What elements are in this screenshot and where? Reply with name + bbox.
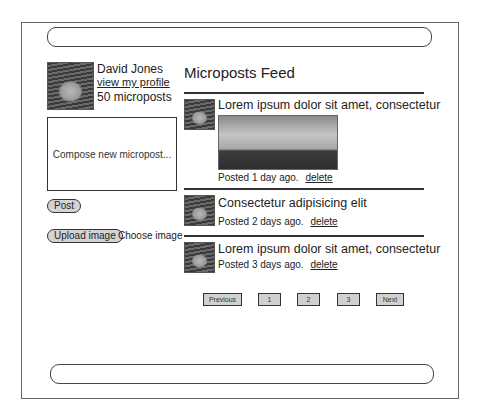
view-profile-link[interactable]: view my profile bbox=[97, 76, 170, 88]
pagination-next[interactable]: Next bbox=[376, 293, 404, 306]
post-timestamp: Posted 1 day ago. bbox=[218, 172, 299, 183]
post-image bbox=[218, 115, 338, 170]
upload-image-button[interactable]: Upload image bbox=[47, 229, 123, 243]
delete-link[interactable]: delete bbox=[310, 259, 337, 270]
pagination-previous[interactable]: Previous bbox=[203, 293, 242, 306]
post-content: Lorem ipsum dolor sit amet, consectetur bbox=[218, 242, 440, 256]
post-meta: Posted 3 days ago. delete bbox=[218, 259, 338, 270]
delete-link[interactable]: delete bbox=[305, 172, 332, 183]
pagination-page-2[interactable]: 2 bbox=[297, 293, 320, 306]
post-timestamp: Posted 3 days ago. bbox=[218, 259, 304, 270]
post-content: Consectetur adipisicing elit bbox=[218, 196, 367, 210]
divider bbox=[184, 92, 424, 94]
divider bbox=[184, 188, 424, 190]
post-timestamp: Posted 2 days ago. bbox=[218, 216, 304, 227]
feed-title: Microposts Feed bbox=[184, 64, 295, 81]
post-button[interactable]: Post bbox=[47, 199, 81, 213]
post-meta: Posted 2 days ago. delete bbox=[218, 216, 338, 227]
post-avatar bbox=[184, 99, 215, 130]
user-avatar bbox=[47, 62, 94, 110]
post-meta: Posted 1 day ago. delete bbox=[218, 172, 333, 183]
pagination-page-1[interactable]: 1 bbox=[258, 293, 281, 306]
user-name: David Jones bbox=[97, 62, 163, 76]
compose-micropost-textarea[interactable]: Compose new micropost... bbox=[47, 117, 177, 191]
choose-image-label: Choose image bbox=[118, 230, 182, 241]
post-content: Lorem ipsum dolor sit amet, consectetur bbox=[218, 98, 440, 112]
pagination-page-3[interactable]: 3 bbox=[337, 293, 360, 306]
divider bbox=[184, 235, 424, 237]
delete-link[interactable]: delete bbox=[310, 216, 337, 227]
header-bar bbox=[47, 27, 432, 47]
post-avatar bbox=[184, 195, 215, 226]
micropost-count: 50 microposts bbox=[97, 90, 172, 104]
footer-bar bbox=[50, 364, 434, 384]
compose-placeholder: Compose new micropost... bbox=[53, 149, 171, 160]
post-avatar bbox=[184, 242, 215, 273]
